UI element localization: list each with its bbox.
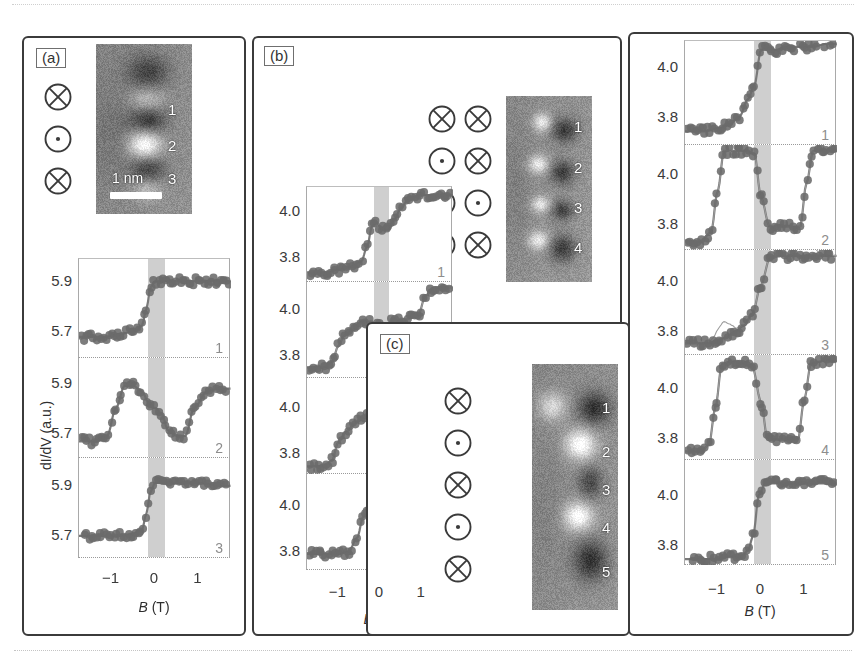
data-point [754,167,762,175]
x-tick-label: −1 [97,570,125,585]
data-point [741,101,749,109]
spin-cross-icon [440,466,476,508]
panel-c-xlabel: B (T) [684,604,836,618]
panel-c-xlabel-unit: (T) [758,603,776,619]
theory-curve [685,44,837,131]
data-point [185,418,193,426]
subplot-a-2: 2 [78,358,230,458]
data-point [736,116,744,124]
y-tick-label: 3.8 [640,216,678,231]
panel-a-xlabel-symbol: B [138,599,147,615]
x-tick-label: −1 [703,581,731,596]
subplot-index-label: 4 [821,443,829,457]
subplot-index-label: 3 [821,338,829,352]
top-rule [12,4,854,5]
panel-c-spin-column [440,382,476,592]
data-point [707,438,715,446]
data-point [222,388,230,396]
data-point [712,190,720,198]
data-point [754,62,762,70]
data-point [104,431,112,439]
data-point [790,47,798,55]
data-point [758,190,766,198]
stm-site-label: 3 [574,200,582,215]
data-point [827,256,835,264]
data-point [364,240,372,248]
y-tick-label: 3.8 [262,445,300,460]
y-tick-label: 3.8 [640,323,678,338]
spin-row [440,424,476,466]
panel-a-label: (a) [36,48,66,68]
data-point [711,199,719,207]
figure-root: (a) 1231 nm 123 dI/dV (a.u.) B (T) (b) 1… [0,0,866,659]
stm-site-label: 2 [602,444,610,459]
stm-site-label: 4 [574,240,582,255]
panel-c-plot-stack: 12345 [684,40,836,575]
stm-site-label: 4 [602,520,610,535]
spin-cross-icon [40,78,76,120]
x-tick-label: 1 [789,581,817,596]
y-tick-label: 5.7 [34,323,72,338]
subplot-index-label: 2 [215,441,223,455]
data-point [760,275,768,283]
y-tick-label: 5.7 [34,425,72,440]
data-point [750,83,758,91]
y-tick-label: 5.9 [34,375,72,390]
data-point [752,380,760,388]
data-point [366,227,374,235]
data-point [760,409,768,417]
x-tick-label: 0 [365,584,393,599]
theory-curve [685,256,837,343]
spin-row [440,508,476,550]
spin-row [440,550,476,592]
subplot-b-1: 1 [306,186,452,282]
data-point [758,487,766,495]
spin-dot-icon [460,184,496,226]
data-point [750,363,758,371]
data-point [180,435,188,443]
spin-dot-icon [440,508,476,550]
data-point [709,414,717,422]
stm-site-label: 1 [574,119,582,134]
data-point [348,547,356,555]
spin-cross-icon [440,382,476,424]
subplot-index-label: 5 [821,548,829,562]
data-point [749,312,757,320]
y-tick-label: 5.9 [34,273,72,288]
spin-row [424,142,496,184]
scale-bar-label: 1 nm [112,171,143,185]
x-tick-label: 0 [140,570,168,585]
data-point [445,285,453,293]
data-point [359,257,367,265]
subplot-canvas [79,458,231,558]
data-point [745,544,753,552]
y-tick-label: 3.8 [640,430,678,445]
subplot-c-3: 3 [684,250,836,355]
subplot-canvas [685,355,837,460]
y-tick-label: 4.0 [640,487,678,502]
y-tick-label: 3.8 [262,347,300,362]
x-tick-label: 1 [407,584,435,599]
data-point [331,353,339,361]
spin-row [424,100,496,142]
stm-site-label: 5 [602,564,610,579]
data-point [717,167,725,175]
subplot-c-2: 2 [684,145,836,250]
spin-row [40,162,76,204]
subplot-a-3: 3 [78,458,230,558]
y-tick-label: 4.0 [640,166,678,181]
subplot-canvas [79,259,231,359]
data-point [371,217,379,225]
subplot-index-label: 1 [821,128,829,142]
x-tick-label: 0 [746,581,774,596]
data-point [712,399,720,407]
subplot-c-4: 4 [684,355,836,460]
subplot-index-label: 1 [215,341,223,355]
data-point [804,176,812,184]
data-point [751,305,759,313]
spin-cross-icon [460,100,496,142]
spin-cross-icon [440,550,476,592]
panel-a-plot-stack: 123 [78,258,230,568]
data-point [353,534,361,542]
spin-dot-icon [440,424,476,466]
